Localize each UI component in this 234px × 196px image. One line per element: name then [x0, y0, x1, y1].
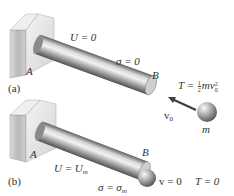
end-label-b: B: [142, 147, 149, 158]
fraction-denominator: 2: [198, 87, 201, 93]
kinetic-energy-label-b: T = 0: [195, 176, 219, 187]
strain-energy-label-a: U = 0: [70, 32, 96, 43]
rod-b: [33, 120, 153, 182]
kinetic-prefix: T =: [178, 79, 197, 91]
kinetic-energy-label-a: T = 12mv20: [178, 80, 218, 93]
panel-label-b: (b): [8, 176, 21, 187]
velocity-sub: 0: [170, 115, 174, 123]
fraction-numerator: 1: [198, 80, 201, 87]
stress-label-b: σ = σm: [98, 182, 127, 195]
energy-prefix: U = U: [54, 162, 83, 174]
mass-label-a: m: [202, 124, 210, 135]
mass-ball-b: [138, 169, 156, 187]
stress-prefix: σ = σ: [98, 181, 122, 193]
support-label-b: A: [30, 149, 37, 160]
stress-sub: m: [122, 187, 127, 195]
velocity-label-b: v = 0: [159, 176, 182, 187]
stress-label-a: σ = 0: [116, 56, 140, 67]
support-label-a: A: [26, 66, 33, 77]
end-label-a: B: [152, 70, 159, 81]
energy-sub: m: [83, 168, 88, 176]
velocity-label-a: v0: [164, 110, 173, 123]
velocity-arrow: [168, 97, 196, 110]
panel-label-a: (a): [8, 83, 20, 94]
diagram-canvas: [0, 0, 234, 196]
strain-energy-label-b: U = Um: [54, 163, 88, 176]
fraction: 12: [198, 80, 201, 93]
sub-sup: 20: [215, 81, 218, 93]
mass-ball-a: [197, 102, 217, 122]
subscript: 0: [215, 87, 218, 93]
kinetic-mv: mv: [202, 79, 215, 91]
superscript: 2: [215, 81, 218, 87]
